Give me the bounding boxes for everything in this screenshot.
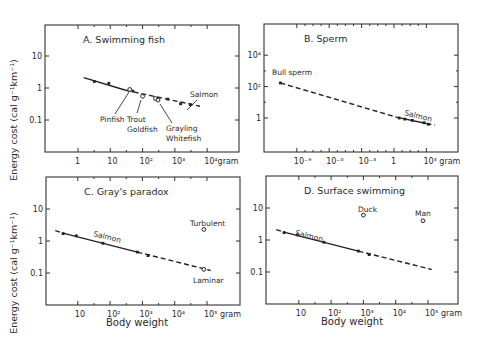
annotation-label: Laminar: [193, 276, 225, 285]
filled-data-point: [147, 254, 150, 257]
x-tick-label: 10: [296, 309, 306, 318]
filled-data-point: [179, 102, 182, 105]
y-axis-label-top: Energy cost (cal g⁻¹km⁻¹): [8, 59, 19, 181]
trend-lines: [84, 78, 200, 107]
y-tick-label: 0.1: [29, 116, 42, 125]
x-tick-label: 10: [107, 157, 117, 166]
y-tick-label: 10⁴: [248, 51, 261, 60]
filled-data-point: [93, 80, 96, 83]
filled-data-point: [357, 250, 360, 253]
x-tick-label: 10⁵ gram: [204, 310, 241, 319]
filled-data-point: [323, 241, 326, 244]
filled-data-point: [368, 253, 371, 256]
x-axis-ticks: 1010²10³10⁴10⁵ gram: [75, 177, 241, 319]
annotation-label: Salmon: [190, 90, 218, 99]
dashed-trend-line: [126, 90, 200, 106]
panel-C: 1010²10³10⁴10⁵ gram1010.1C. Gray's parad…: [30, 177, 241, 319]
annotations: Bull spermSalmon: [272, 68, 433, 124]
x-tick-label: 10: [75, 310, 85, 319]
panel-title: D. Surface swimming: [304, 185, 405, 196]
y-axis-label-bottom: Energy cost (cal g⁻¹km⁻¹): [8, 212, 19, 334]
annotation-label: Grayling: [166, 124, 198, 133]
filled-data-point: [283, 231, 286, 234]
series-laminar: [202, 267, 206, 271]
annotation-leader-line: [137, 100, 141, 113]
panel-title: C. Gray's paradox: [84, 186, 169, 197]
filled-data-point: [75, 234, 78, 237]
x-axis-label-left: Body weight: [106, 317, 168, 328]
x-axis-label-right: Body weight: [321, 316, 383, 327]
open-data-point: [156, 98, 160, 102]
filled-data-point: [107, 82, 110, 85]
open-data-point: [421, 219, 425, 223]
annotation-label: Bull sperm: [272, 68, 312, 77]
panel-title: B. Sperm: [304, 33, 347, 44]
filled-data-point: [279, 82, 282, 85]
panel-B: 10⁻⁹10⁻⁶10⁻³110³ gram10⁴10²1B. SpermBull…: [248, 24, 461, 166]
x-tick-label: 10⁻⁶: [326, 157, 344, 166]
x-tick-label: 10⁻³: [359, 157, 377, 166]
y-tick-label: 1: [256, 114, 261, 123]
filled-data-point: [102, 242, 105, 245]
series-man: [421, 219, 425, 223]
annotations: SalmonDuckMan: [295, 205, 432, 244]
annotation-label: Trout: [126, 115, 146, 124]
y-axis-ticks: 10⁴10²1: [248, 51, 458, 123]
y-tick-label: 10²: [248, 83, 261, 92]
annotation-leader-line: [115, 92, 129, 114]
annotation-label: Turbulent: [189, 219, 225, 228]
plot-frame: [264, 24, 458, 152]
annotation-label: Man: [415, 209, 431, 218]
annotation-label: Whitefish: [166, 134, 201, 143]
series-trout-goldfish: [141, 94, 145, 98]
x-tick-label: 10⁻⁹: [294, 157, 312, 166]
open-data-point: [202, 228, 206, 232]
y-tick-label: 10: [253, 204, 263, 213]
series-salmon: [93, 80, 192, 106]
trend-lines: [55, 231, 210, 271]
x-tick-label: 10³: [172, 157, 185, 166]
x-tick-label: 1: [391, 157, 396, 166]
annotation-label: Salmon: [295, 228, 325, 244]
filled-data-point: [166, 98, 169, 101]
x-tick-label: 10⁵ gram: [425, 309, 462, 318]
y-axis-ticks: 1010.1: [30, 205, 240, 278]
y-tick-label: 1: [258, 236, 263, 245]
figure-energy-cost-vs-body-weight: 11010²10³10⁴gram1010.1A. Swimming fishSa…: [0, 0, 479, 342]
series-bull-sperm: [279, 82, 282, 85]
y-tick-label: 10: [32, 52, 42, 61]
open-data-point: [128, 88, 132, 92]
annotation-leader-line: [187, 100, 197, 110]
x-tick-label: 10⁴gram: [204, 157, 239, 166]
open-data-point: [141, 94, 145, 98]
dashed-trend-line: [280, 83, 397, 117]
filled-data-point: [411, 119, 414, 122]
solid-trend-line: [84, 78, 126, 91]
y-tick-label: 10: [33, 205, 43, 214]
annotation-label: Pinfish: [100, 115, 125, 124]
four-panel-loglog-chart: 11010²10³10⁴gram1010.1A. Swimming fishSa…: [0, 0, 479, 342]
y-tick-label: 0.1: [30, 269, 43, 278]
y-tick-label: 1: [37, 84, 42, 93]
open-data-point: [202, 267, 206, 271]
panel-A: 11010²10³10⁴gram1010.1A. Swimming fishSa…: [29, 25, 239, 166]
filled-data-point: [403, 118, 406, 121]
annotation-label: Duck: [358, 205, 378, 214]
x-tick-label: 10²: [140, 157, 153, 166]
filled-data-point: [398, 117, 401, 120]
y-tick-label: 1: [38, 237, 43, 246]
panel-D: 1010²10³10⁴10⁵ gram1010.1D. Surface swim…: [250, 176, 462, 318]
panel-title: A. Swimming fish: [83, 34, 165, 45]
filled-data-point: [62, 232, 65, 235]
series-pinfish: [128, 88, 132, 92]
annotation-label: Goldfish: [127, 125, 158, 134]
filled-data-point: [136, 251, 139, 254]
x-tick-label: 10⁴: [172, 310, 185, 319]
series-turbulent: [202, 228, 206, 232]
annotation-leader-line: [160, 104, 172, 123]
x-axis-ticks: 1010²10³10⁴10⁵ gram: [296, 176, 462, 318]
y-tick-label: 0.1: [250, 268, 263, 277]
x-tick-label: 10⁴: [393, 309, 406, 318]
x-tick-label: 1: [75, 157, 80, 166]
x-tick-label: 10³ gram: [423, 157, 460, 166]
